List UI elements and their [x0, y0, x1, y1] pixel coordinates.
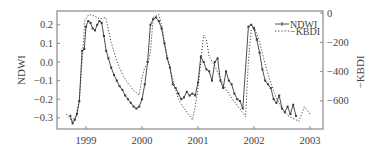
ndwi-marker	[83, 48, 85, 50]
ndwi-marker	[236, 98, 238, 100]
left-tick-label: 0.2	[40, 19, 53, 30]
ndwi-marker	[214, 61, 216, 63]
ndwi-marker	[87, 20, 89, 22]
ndwi-marker	[180, 98, 182, 100]
ndwi-marker	[127, 98, 129, 100]
right-tick-label: −400	[327, 66, 349, 77]
ndwi-marker	[155, 16, 157, 18]
ndwi-marker	[250, 24, 252, 26]
ndwi-marker	[133, 106, 135, 108]
ndwi-marker	[217, 57, 219, 59]
ndwi-marker	[273, 98, 275, 100]
ndwi-marker	[107, 57, 109, 59]
ndwi-marker	[110, 67, 112, 69]
plot-frame	[57, 11, 323, 129]
ndwi-marker	[105, 50, 107, 52]
ndwi-marker	[94, 29, 96, 31]
ndwi-marker	[92, 28, 94, 30]
ndwi-marker	[222, 87, 224, 89]
ndwi-marker	[289, 113, 291, 115]
ndwi-marker	[183, 96, 185, 98]
ndwi-marker	[85, 26, 87, 28]
left-tick-label: −0.3	[34, 112, 53, 123]
ndwi-marker	[158, 20, 160, 22]
ndwi-marker	[287, 106, 289, 108]
ndwi-marker	[189, 95, 191, 97]
ndwi-marker	[194, 95, 196, 97]
ndwi-marker	[242, 108, 244, 110]
ndwi-marker	[191, 93, 193, 95]
ndwi-marker	[124, 95, 126, 97]
ndwi-marker	[261, 68, 263, 70]
left-tick-label: −0.1	[34, 75, 53, 86]
ndwi-marker	[259, 52, 261, 54]
ndwi-marker	[275, 102, 277, 104]
ndwi-marker	[69, 115, 71, 117]
ndwi-marker	[141, 98, 143, 100]
x-tick-label: 2003	[300, 135, 321, 146]
ndwi-marker	[98, 20, 100, 22]
ndwi-marker	[278, 95, 280, 97]
ndwi-marker	[116, 80, 118, 82]
left-y-axis: 0.20.10.0−0.1−0.2−0.3	[34, 19, 60, 123]
ndwi-marker	[101, 22, 103, 24]
ndwi-marker	[72, 122, 74, 124]
ndwi-marker	[90, 22, 92, 24]
x-tick-label: 2000	[132, 135, 153, 146]
ndwi-marker	[264, 80, 266, 82]
right-tick-label: −200	[327, 37, 349, 48]
right-y-axis: 0−200−400−600	[320, 8, 349, 107]
series-layer	[66, 15, 310, 125]
ndwi-marker	[113, 74, 115, 76]
ndwi-marker	[121, 89, 123, 91]
ndwi-kbdi-chart: 0.20.10.0−0.1−0.2−0.3 0−200−400−600 1999…	[0, 0, 380, 153]
ndwi-marker	[172, 83, 174, 85]
left-tick-label: 0.1	[40, 38, 53, 49]
x-tick-label: 2002	[244, 135, 265, 146]
ndwi-marker	[135, 108, 137, 110]
legend-kbdi-label: −KBDI	[290, 26, 320, 37]
left-axis-title: NDWI	[15, 55, 27, 85]
ndwi-marker	[130, 102, 132, 104]
ndwi-marker	[96, 24, 98, 26]
ndwi-marker	[177, 93, 179, 95]
ndwi-marker	[103, 35, 105, 37]
ndwi-marker	[295, 115, 297, 117]
right-tick-label: 0	[327, 8, 332, 19]
ndwi-marker	[149, 24, 151, 26]
ndwi-marker	[144, 83, 146, 85]
ndwi-marker	[225, 70, 227, 72]
ndwi-marker	[270, 87, 272, 89]
ndwi-marker	[208, 70, 210, 72]
ndwi-marker	[138, 106, 140, 108]
right-tick-label: −600	[327, 95, 349, 106]
x-tick-label: 2001	[188, 135, 209, 146]
ndwi-marker	[228, 80, 230, 82]
ndwi-marker	[233, 93, 235, 95]
ndwi-marker	[211, 80, 213, 82]
left-tick-label: −0.2	[34, 94, 53, 105]
ndwi-marker	[203, 61, 205, 63]
ndwi-marker	[256, 39, 258, 41]
ndwi-marker	[205, 68, 207, 70]
ndwi-marker	[292, 104, 294, 106]
ndwi-marker	[231, 83, 233, 85]
ndwi-marker	[247, 26, 249, 28]
x-tick-label: 1999	[76, 135, 97, 146]
ndwi-marker	[186, 91, 188, 93]
ndwi-marker	[239, 100, 241, 102]
ndwi-marker	[119, 85, 121, 87]
legend: NDWI −KBDI	[275, 19, 320, 37]
left-tick-label: 0.0	[40, 57, 53, 68]
ndwi-marker	[267, 83, 269, 85]
right-axis-title: −KBDI	[354, 55, 366, 88]
